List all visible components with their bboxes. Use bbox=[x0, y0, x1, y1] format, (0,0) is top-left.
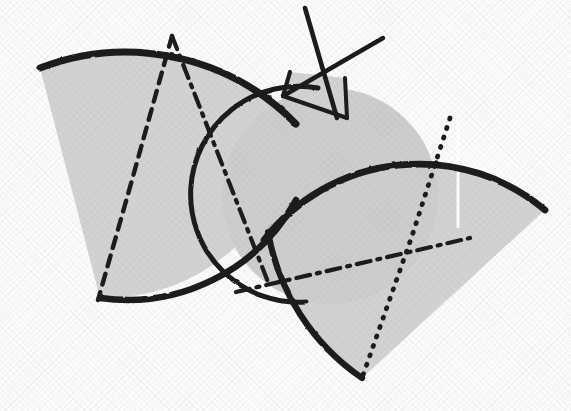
antenna-box-right-edge bbox=[345, 78, 347, 118]
butterfly-figure-svg bbox=[0, 0, 571, 411]
figure-canvas bbox=[0, 0, 571, 411]
